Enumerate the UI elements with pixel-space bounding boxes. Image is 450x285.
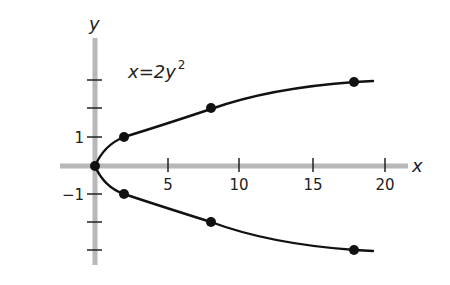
point-0-0 — [90, 161, 100, 171]
y-tick-label-1: 1 — [74, 129, 84, 147]
equation-annotation: x=2y2 — [127, 58, 185, 82]
point-8-2 — [206, 103, 216, 113]
y-axis-label: y — [88, 13, 100, 34]
point-18-neg3 — [349, 245, 359, 255]
point-18-3 — [349, 77, 359, 87]
x-tick-label-15: 15 — [303, 176, 322, 194]
x-tick-label-20: 20 — [375, 176, 394, 194]
point-2-neg1 — [119, 189, 129, 199]
x-tick-label-5: 5 — [163, 176, 173, 194]
point-8-neg2 — [206, 217, 216, 227]
x-tick-label-10: 10 — [229, 176, 248, 194]
equation-exponent: 2 — [178, 58, 186, 72]
y-tick-label-neg1: −1 — [62, 186, 84, 204]
equation-main: x=2y — [127, 61, 176, 82]
x-axis-label: x — [411, 155, 423, 176]
point-2-1 — [119, 132, 129, 142]
parabola-chart: 5 10 15 20 1 −1 x y x=2y2 — [0, 0, 450, 285]
